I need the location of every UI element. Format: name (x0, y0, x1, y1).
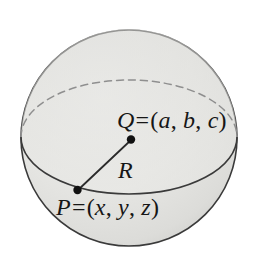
point-p-component-y: y (118, 194, 129, 220)
point-q-component-b: b (183, 107, 195, 133)
point-p-symbol: P (56, 194, 71, 220)
point-q-symbol: Q (117, 107, 135, 133)
point-p-separator-1: , (106, 194, 112, 220)
point-p-marker (73, 186, 81, 194)
point-q-component-a: a (159, 107, 171, 133)
point-q-component-c: c (208, 107, 219, 133)
point-q-marker (127, 135, 135, 143)
point-q-label: Q=(a, b, c) (117, 108, 227, 132)
point-p-label: P=(x, y, z) (56, 195, 159, 219)
point-p-equals: = (71, 194, 87, 220)
point-q-close-paren: ) (219, 107, 227, 133)
point-q-equals: = (135, 107, 151, 133)
point-q-separator-1: , (171, 107, 177, 133)
point-p-separator-2: , (129, 194, 135, 220)
point-q-separator-2: , (195, 107, 201, 133)
point-q-open-paren: ( (150, 107, 158, 133)
point-p-open-paren: ( (87, 194, 95, 220)
point-p-component-z: z (141, 194, 151, 220)
point-p-close-paren: ) (151, 194, 159, 220)
radius-symbol: R (118, 157, 133, 183)
point-p-component-x: x (95, 194, 106, 220)
radius-label: R (118, 158, 133, 182)
sphere-figure: Q=(a, b, c) P=(x, y, z) R (0, 0, 260, 264)
